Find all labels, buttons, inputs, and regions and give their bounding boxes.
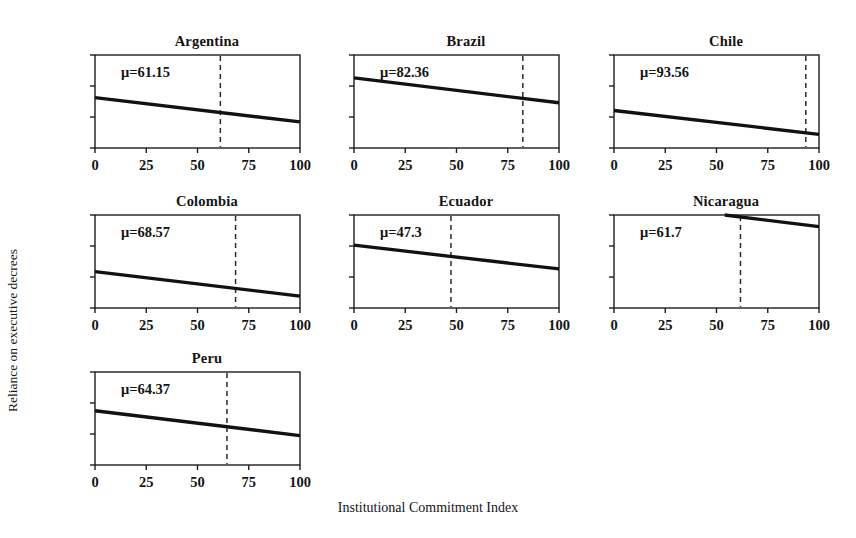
mean-annotation: μ=61.7 bbox=[640, 224, 682, 240]
panel-title: Colombia bbox=[88, 193, 326, 210]
x-tick-label: 50 bbox=[190, 157, 205, 173]
x-tick-label: 100 bbox=[289, 474, 311, 490]
x-tick-label: 75 bbox=[761, 157, 776, 173]
x-tick-label: 0 bbox=[350, 317, 357, 333]
x-tick-label: 100 bbox=[808, 157, 830, 173]
x-tick-label: 100 bbox=[289, 317, 311, 333]
x-tick-label: 25 bbox=[398, 317, 413, 333]
panel-plot: 0.00.20.40.60255075100μ=64.37 bbox=[88, 350, 326, 496]
fit-line bbox=[95, 272, 300, 297]
x-tick-label: 75 bbox=[761, 317, 776, 333]
x-tick-label: 50 bbox=[709, 157, 724, 173]
x-tick-label: 100 bbox=[289, 157, 311, 173]
mean-annotation: μ=93.56 bbox=[640, 64, 689, 80]
panel-title: Argentina bbox=[88, 33, 326, 50]
panel-title: Peru bbox=[88, 350, 326, 367]
x-tick-label: 0 bbox=[91, 157, 98, 173]
panel-nicaragua: Nicaragua0.00.20.40.60255075100μ=61.7 bbox=[607, 193, 845, 339]
mean-annotation: μ=47.3 bbox=[380, 224, 422, 240]
x-tick-label: 75 bbox=[501, 317, 516, 333]
x-tick-label: 50 bbox=[190, 317, 205, 333]
x-tick-label: 50 bbox=[190, 474, 205, 490]
panel-chile: Chile0.00.20.40.60255075100μ=93.56 bbox=[607, 33, 845, 179]
mean-annotation: μ=64.37 bbox=[121, 381, 170, 397]
small-multiples-figure: Reliance on executive decrees Argentina0… bbox=[0, 0, 856, 538]
x-tick-label: 0 bbox=[91, 474, 98, 490]
mean-annotation: μ=68.57 bbox=[121, 224, 170, 240]
fit-line bbox=[95, 411, 300, 436]
panel-title: Chile bbox=[607, 33, 845, 50]
x-tick-label: 25 bbox=[139, 317, 154, 333]
x-tick-label: 25 bbox=[398, 157, 413, 173]
x-tick-label: 0 bbox=[350, 157, 357, 173]
mean-annotation: μ=82.36 bbox=[380, 64, 429, 80]
y-axis-label: Reliance on executive decrees bbox=[2, 186, 24, 476]
panel-plot: 0.00.20.40.60255075100μ=61.15 bbox=[88, 33, 326, 179]
mean-annotation: μ=61.15 bbox=[121, 64, 170, 80]
panel-peru: Peru0.00.20.40.60255075100μ=64.37 bbox=[88, 350, 326, 496]
panel-brazil: Brazil0.00.20.40.60255075100μ=82.36 bbox=[347, 33, 585, 179]
x-tick-label: 25 bbox=[658, 157, 673, 173]
x-tick-label: 75 bbox=[242, 474, 257, 490]
x-tick-label: 0 bbox=[610, 317, 617, 333]
x-tick-label: 100 bbox=[548, 157, 570, 173]
panel-plot: 0.00.20.40.60255075100μ=93.56 bbox=[607, 33, 845, 179]
x-tick-label: 75 bbox=[242, 317, 257, 333]
panel-title: Ecuador bbox=[347, 193, 585, 210]
fit-line bbox=[725, 215, 819, 227]
panel-title: Nicaragua bbox=[607, 193, 845, 210]
x-tick-label: 75 bbox=[242, 157, 257, 173]
panel-argentina: Argentina0.00.20.40.60255075100μ=61.15 bbox=[88, 33, 326, 179]
panel-plot: 0.00.20.40.60255075100μ=61.7 bbox=[607, 193, 845, 339]
x-tick-label: 25 bbox=[139, 474, 154, 490]
panel-ecuador: Ecuador0.00.20.40.60255075100μ=47.3 bbox=[347, 193, 585, 339]
x-tick-label: 50 bbox=[449, 157, 464, 173]
x-tick-label: 0 bbox=[610, 157, 617, 173]
x-tick-label: 0 bbox=[91, 317, 98, 333]
panel-plot: 0.00.20.40.60255075100μ=47.3 bbox=[347, 193, 585, 339]
panel-colombia: Colombia0.00.20.40.60255075100μ=68.57 bbox=[88, 193, 326, 339]
panel-plot: 0.00.20.40.60255075100μ=68.57 bbox=[88, 193, 326, 339]
x-tick-label: 50 bbox=[709, 317, 724, 333]
fit-line bbox=[354, 78, 559, 103]
panel-title: Brazil bbox=[347, 33, 585, 50]
x-tick-label: 100 bbox=[808, 317, 830, 333]
x-axis-label: Institutional Commitment Index bbox=[228, 500, 628, 516]
x-tick-label: 25 bbox=[139, 157, 154, 173]
x-tick-label: 100 bbox=[548, 317, 570, 333]
fit-line bbox=[614, 110, 819, 134]
fit-line bbox=[95, 98, 300, 122]
x-tick-label: 75 bbox=[501, 157, 516, 173]
panel-plot: 0.00.20.40.60255075100μ=82.36 bbox=[347, 33, 585, 179]
fit-line bbox=[354, 245, 559, 269]
x-tick-label: 50 bbox=[449, 317, 464, 333]
x-tick-label: 25 bbox=[658, 317, 673, 333]
